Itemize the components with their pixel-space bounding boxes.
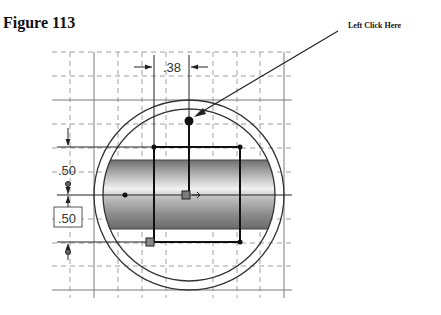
dimension-horizontal-value: .38	[163, 60, 181, 75]
dimension-vertical-lower-value: .50	[58, 211, 76, 226]
sketch-canvas[interactable]: .38 .50 .50	[0, 0, 441, 315]
dimension-vertical-lower[interactable]: .50	[54, 196, 82, 260]
target-endpoint[interactable]	[185, 117, 194, 126]
fixed-point-marker[interactable]	[146, 238, 154, 246]
dimension-vertical-upper-value: .50	[58, 163, 76, 178]
callout-leader-arrow	[194, 31, 338, 117]
dimension-vertical-upper[interactable]: .50	[58, 128, 76, 194]
dimension-horizontal[interactable]: .38	[134, 60, 208, 75]
origin-marker[interactable]	[182, 191, 190, 199]
